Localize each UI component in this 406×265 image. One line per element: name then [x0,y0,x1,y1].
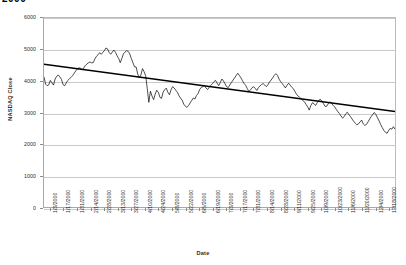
x-tick-label: 10/9/2000 [323,190,329,213]
x-tick-label: 12/4/2000 [378,190,384,213]
y-tick-label: 0 [8,205,36,211]
x-tick-mark [172,208,173,211]
nasdaq-2000-chart: 2000 NASDAQ Close 0100020003000400050006… [0,0,406,265]
x-tick-mark [362,208,363,211]
x-tick-label: 3/13/2000 [120,190,126,213]
x-tick-mark [104,208,105,211]
x-tick-label: 2/14/2000 [93,190,99,213]
x-tick-mark [199,208,200,211]
y-tick-label: 4000 [8,78,36,84]
x-tick-label: 8/28/2000 [283,190,289,213]
y-tick-mark [40,208,43,209]
x-tick-mark [50,208,51,211]
x-tick-label: 6/19/2000 [215,190,221,213]
y-tick-label: 1000 [8,173,36,179]
x-tick-mark [213,208,214,211]
x-tick-label: 10/23/2000 [337,187,343,213]
x-tick-mark [91,208,92,211]
plot-area [43,17,396,208]
trend-line [44,64,395,111]
x-axis-title: Date [0,250,406,256]
x-tick-mark [118,208,119,211]
x-tick-label: 1/3/2000 [52,193,58,213]
x-tick-label: 12/18/2000 [391,187,397,213]
x-tick-mark [308,208,309,211]
x-tick-label: 9/11/2000 [296,190,302,213]
y-tick-label: 5000 [8,46,36,52]
x-tick-label: 9/25/2000 [310,190,316,213]
x-tick-label: 11/6/2000 [350,190,356,213]
x-tick-label: 4/10/2000 [147,190,153,213]
x-tick-label: 7/31/2000 [255,190,261,213]
x-tick-mark [186,208,187,211]
x-tick-label: 5/22/2000 [188,190,194,213]
x-tick-label: 1/17/2000 [65,190,71,213]
x-tick-mark [267,208,268,211]
data-line [44,48,395,133]
y-tick-label: 3000 [8,110,36,116]
x-tick-mark [240,208,241,211]
x-tick-label: 7/17/2000 [242,190,248,213]
y-tick-label: 6000 [8,14,36,20]
x-tick-mark [77,208,78,211]
x-tick-label: 1/31/2000 [79,190,85,213]
x-tick-mark [281,208,282,211]
x-tick-label: 4/24/2000 [160,190,166,213]
y-tick-label: 2000 [8,141,36,147]
data-series-svg [44,18,395,207]
x-tick-mark [335,208,336,211]
x-tick-mark [376,208,377,211]
x-tick-label: 2/28/2000 [106,190,112,213]
chart-title: 2000 [2,0,26,4]
x-tick-label: 8/14/2000 [269,190,275,213]
x-tick-label: 6/5/2000 [201,193,207,213]
x-tick-label: 11/20/2000 [364,187,370,213]
x-tick-mark [145,208,146,211]
x-tick-label: 5/8/2000 [174,193,180,213]
x-tick-label: 3/27/2000 [133,190,139,213]
x-tick-label: 7/3/2000 [228,193,234,213]
